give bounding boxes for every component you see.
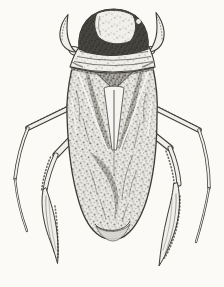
head-vertex <box>95 10 136 43</box>
right-eye-gloss <box>136 19 141 24</box>
insect-illustration: Aquatic bug (saucer bug), dorsal view <box>0 0 224 287</box>
insect-drawing: Aquatic bug (saucer bug), dorsal view <box>0 0 224 287</box>
